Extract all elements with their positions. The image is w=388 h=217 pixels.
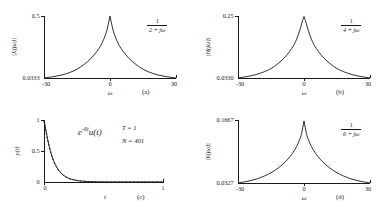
panel-c-letter: (c): [137, 194, 145, 201]
panel-a-curve-area: [44, 16, 176, 78]
panel-b-y-label: |H(jω)|: [205, 38, 211, 57]
panel-d: 0.1667 0.0327 -30 0 30 |Y(jω)| ω (d) 1 6…: [194, 108, 388, 217]
panel-d-xtick-mid-label: 0: [302, 186, 305, 192]
panel-d-ytick-top-label: 0.1667: [216, 117, 235, 123]
panel-a-curve: [44, 16, 176, 78]
panel-d-y-label: |Y(jω)|: [205, 143, 211, 161]
figure-container: 0.5 0.0333 -30 0 30 |X(jω)| ω (a) 1 2 + …: [0, 0, 388, 217]
panel-a-xtick-left-label: -30: [42, 81, 50, 87]
panel-b-xtick-right-label: 30: [365, 81, 371, 87]
panel-d-letter: (d): [336, 194, 344, 201]
panel-d-xtick-left-label: -30: [236, 186, 244, 192]
panel-c-y-label: y(t): [14, 147, 20, 156]
panel-c-ytick-bottom-label: 0: [36, 179, 41, 185]
panel-a-xtick-right-label: 30: [171, 81, 177, 87]
panel-c-xtick-right-label: 1: [161, 185, 164, 191]
panel-a-ytick-top-label: 0.5: [32, 13, 41, 19]
panel-a-xtick-right: [176, 75, 177, 78]
panel-a: 0.5 0.0333 -30 0 30 |X(jω)| ω (a) 1 2 + …: [0, 0, 194, 108]
panel-d-curve-area: [238, 120, 370, 183]
panel-c-x-label: t: [104, 194, 106, 201]
panel-a-ytick-bottom-label: 0.0333: [22, 75, 41, 81]
panel-c-curve-exact: [44, 120, 164, 182]
panel-c-curve-area: [44, 120, 164, 182]
panel-b-x-label: ω: [302, 90, 307, 97]
panel-b-curve: [238, 17, 370, 79]
panel-d-curve: [238, 121, 370, 183]
panel-d-xtick-right: [370, 180, 371, 183]
panel-c-curve-numerical: [44, 121, 164, 182]
panel-c-ytick-top-label: 1: [36, 117, 41, 123]
panel-b-letter: (b): [336, 89, 344, 96]
panel-a-x-label: ω: [108, 90, 113, 97]
panel-c-xtick-left-label: 0: [43, 185, 46, 191]
panel-d-xtick-right-label: 30: [365, 186, 371, 192]
panel-a-xtick-mid-label: 0: [108, 81, 111, 87]
panel-b-xtick-mid-label: 0: [302, 81, 305, 87]
panel-b-ytick-top-label: 0.25: [223, 13, 235, 19]
panel-b: 0.25 0.0330 -30 0 30 |H(jω)| ω (b) 1 4 +…: [194, 0, 388, 108]
panel-b-ytick-bottom-label: 0.0330: [216, 75, 235, 81]
panel-b-xtick-left-label: -30: [236, 81, 244, 87]
panel-c: 1 0.5 0 0 1 y(t) t (c) e-6tu(t) T = 1 N …: [0, 108, 194, 217]
panel-d-x-label: ω: [302, 195, 307, 202]
panel-b-curve-area: [238, 16, 370, 78]
panel-a-y-label: |X(jω)|: [11, 38, 17, 56]
panel-c-ytick-mid-label: 0.5: [32, 148, 41, 154]
panel-d-ytick-bottom-label: 0.0327: [216, 180, 235, 186]
panel-a-letter: (a): [142, 89, 150, 96]
panel-b-xtick-right: [370, 75, 371, 78]
